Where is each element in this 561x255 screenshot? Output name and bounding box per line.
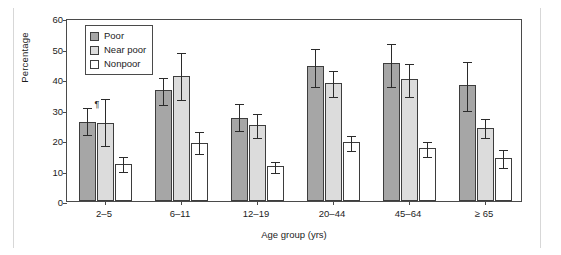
x-axis-title: Age group (yrs): [66, 229, 522, 240]
y-axis-title: Percentage: [19, 0, 30, 118]
y-axis-tick-label: 30: [41, 107, 63, 117]
x-axis-tick-mark: [409, 201, 410, 205]
x-axis-tick-label: 45–64: [368, 208, 448, 219]
error-bar-cap-top: [405, 64, 414, 65]
error-bar-cap-top: [101, 99, 110, 100]
chart-legend: PoorNear poorNonpoor: [85, 25, 153, 75]
error-bar-cap-bottom: [101, 146, 110, 147]
bar: [155, 90, 172, 201]
y-axis-tick-mark: [63, 112, 67, 113]
error-bar-cap-bottom: [195, 154, 204, 155]
error-bar-cap-bottom: [481, 138, 490, 139]
error-bar-stem: [391, 44, 392, 88]
error-bar-cap-bottom: [177, 100, 186, 101]
legend-item: Near poor: [90, 43, 146, 57]
error-bar-cap-top: [159, 78, 168, 79]
error-bar-cap-bottom: [387, 87, 396, 88]
error-bar: [477, 119, 494, 139]
y-axis-tick-mark: [63, 20, 67, 21]
x-axis-tick-mark: [485, 201, 486, 205]
x-axis-tick-mark: [257, 201, 258, 205]
legend-label: Near poor: [104, 45, 146, 55]
error-bar-cap-bottom: [83, 135, 92, 136]
error-bar: [419, 142, 436, 159]
error-bar-cap-top: [423, 142, 432, 143]
x-axis-tick-mark: [105, 201, 106, 205]
error-bar-stem: [87, 108, 88, 136]
y-axis-tick-mark: [63, 173, 67, 174]
bar-chart-figure: Percentage 0102030405060 ¶ PoorNear poor…: [0, 0, 561, 255]
x-axis-tick-mark: [181, 201, 182, 205]
plot-area: 0102030405060 ¶ PoorNear poorNonpoor: [66, 19, 522, 202]
error-bar-stem: [467, 62, 468, 111]
error-bar-cap-bottom: [329, 97, 338, 98]
error-bar: [249, 114, 266, 139]
error-bar: [325, 71, 342, 98]
error-bar-cap-bottom: [499, 168, 508, 169]
error-bar: [267, 162, 284, 174]
error-bar-cap-top: [499, 150, 508, 151]
error-bar: [401, 64, 418, 98]
error-bar-cap-top: [311, 49, 320, 50]
error-bar: [191, 132, 208, 155]
error-bar-stem: [257, 114, 258, 139]
error-bar: [115, 157, 132, 173]
error-bar: [343, 136, 360, 152]
x-axis-tick-label: 12–19: [216, 208, 296, 219]
error-bar-cap-bottom: [405, 97, 414, 98]
y-axis-tick-label: 10: [41, 168, 63, 178]
error-bar-stem: [163, 78, 164, 106]
y-axis-tick-label: 40: [41, 76, 63, 86]
error-bar: [383, 44, 400, 88]
error-bar: [459, 62, 476, 111]
legend-label: Poor: [104, 31, 124, 41]
error-bar-cap-top: [347, 136, 356, 137]
error-bar-cap-bottom: [463, 111, 472, 112]
error-bar-stem: [181, 53, 182, 101]
error-bar-stem: [485, 119, 486, 139]
error-bar-stem: [427, 142, 428, 159]
page-border-left: [13, 8, 14, 248]
error-bar-cap-top: [481, 119, 490, 120]
error-bar-stem: [315, 49, 316, 88]
y-axis-tick-label: 20: [41, 137, 63, 147]
error-bar-cap-top: [329, 71, 338, 72]
error-bar-cap-bottom: [311, 87, 320, 88]
legend-item: Poor: [90, 29, 146, 43]
legend-swatch-near-poor: [90, 46, 99, 55]
y-axis-tick-label: 60: [41, 15, 63, 25]
error-bar-cap-bottom: [253, 138, 262, 139]
legend-swatch-poor: [90, 32, 99, 41]
error-bar: [231, 104, 248, 132]
error-bar-stem: [503, 150, 504, 169]
error-bar-stem: [199, 132, 200, 155]
error-bar-cap-bottom: [119, 172, 128, 173]
x-axis-tick-mark: [333, 201, 334, 205]
error-bar-cap-bottom: [271, 173, 280, 174]
error-bar: [155, 78, 172, 106]
error-bar-stem: [239, 104, 240, 132]
error-bar-cap-top: [195, 132, 204, 133]
legend-label: Nonpoor: [104, 59, 140, 69]
y-axis-tick-label: 0: [41, 198, 63, 208]
x-axis-tick-label: 20–44: [292, 208, 372, 219]
y-axis-tick-mark: [63, 203, 67, 204]
error-bar-stem: [105, 99, 106, 147]
error-bar-stem: [409, 64, 410, 98]
y-axis-tick-mark: [63, 51, 67, 52]
error-bar: [495, 150, 512, 169]
error-bar-stem: [123, 157, 124, 173]
error-bar: [79, 108, 96, 136]
error-bar-stem: [333, 71, 334, 98]
bar: [325, 83, 342, 201]
y-axis-tick-label: 50: [41, 46, 63, 56]
error-bar-cap-top: [119, 157, 128, 158]
y-axis-tick-mark: [63, 81, 67, 82]
footnote-marker: ¶: [95, 100, 100, 109]
error-bar-cap-top: [253, 114, 262, 115]
error-bar-cap-top: [463, 62, 472, 63]
x-axis-tick-label: ≥ 65: [444, 208, 524, 219]
legend-item: Nonpoor: [90, 57, 146, 71]
error-bar-cap-bottom: [235, 131, 244, 132]
y-axis-tick-mark: [63, 142, 67, 143]
